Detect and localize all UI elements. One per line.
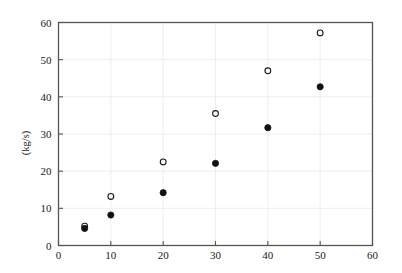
y-tick-label: 60 — [41, 17, 53, 29]
x-tick-label: 10 — [105, 249, 117, 261]
x-tick-label: 60 — [367, 249, 379, 261]
data-point-filled — [82, 225, 88, 231]
data-point-filled — [265, 125, 271, 131]
y-tick-label: 50 — [41, 54, 53, 66]
x-tick-label: 0 — [56, 249, 62, 261]
y-axis-title-text: (kg/s) — [20, 130, 32, 155]
x-tick-label: 20 — [158, 249, 170, 261]
data-point-filled — [108, 212, 114, 218]
y-axis-title: (kg/s) — [20, 130, 32, 155]
figure-background — [0, 0, 402, 273]
data-point-filled — [317, 84, 323, 90]
x-tick-label: 50 — [315, 249, 327, 261]
y-tick-label: 20 — [41, 165, 53, 177]
y-tick-label: 0 — [46, 240, 52, 252]
data-point-filled — [212, 160, 218, 166]
data-point-filled — [160, 190, 166, 196]
x-tick-label: 40 — [262, 249, 274, 261]
plot-canvas: 0102030405060 0102030405060 (kg/s) — [0, 0, 402, 273]
scatter-plot-figure: 0102030405060 0102030405060 (kg/s) — [0, 0, 402, 273]
y-tick-label: 30 — [41, 128, 53, 140]
x-tick-label: 30 — [210, 249, 222, 261]
y-tick-label: 10 — [41, 202, 53, 214]
y-tick-label: 40 — [41, 91, 53, 103]
